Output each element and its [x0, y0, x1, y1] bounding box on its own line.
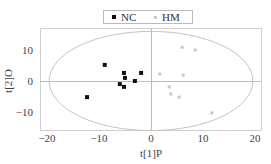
score-plot: −20−1001020−10010t[1]Pt[2]O [0, 0, 271, 164]
data-point-hm [169, 93, 172, 96]
x-tick-label: 0 [148, 132, 154, 144]
data-point-hm [182, 74, 185, 77]
data-point-hm [168, 85, 171, 88]
data-point-hm [178, 96, 181, 99]
x-axis-label: t[1]P [140, 147, 162, 159]
data-point-nc [123, 76, 127, 80]
data-point-nc [139, 71, 143, 75]
y-axis-label: t[2]O [2, 69, 14, 93]
data-point-nc [122, 85, 126, 89]
data-point-nc [118, 82, 122, 86]
data-point-nc [103, 63, 107, 67]
data-point-hm [194, 49, 197, 52]
data-point-nc [85, 95, 89, 99]
data-point-hm [210, 111, 213, 114]
y-tick-label: 0 [28, 75, 34, 87]
data-point-nc [133, 79, 137, 83]
x-tick-label: 10 [198, 132, 210, 144]
data-point-hm [158, 72, 161, 75]
y-tick-label: 10 [22, 44, 34, 56]
y-tick-label: −10 [16, 106, 34, 118]
x-tick-label: −20 [38, 132, 56, 144]
x-tick-label: −10 [90, 132, 108, 144]
x-tick-label: 20 [250, 132, 262, 144]
data-point-nc [122, 71, 126, 75]
data-point-hm [181, 46, 184, 49]
